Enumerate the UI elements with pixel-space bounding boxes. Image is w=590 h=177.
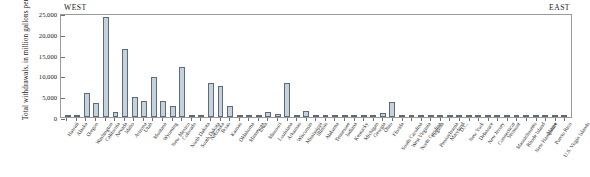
bar[interactable] [198,115,204,117]
bar[interactable] [504,115,510,117]
bar[interactable] [284,83,290,117]
bar-slot [321,15,331,117]
bar[interactable] [533,115,539,117]
region-label-west: WEST [64,3,87,12]
x-label-slot: Alaska [72,121,82,177]
bar[interactable] [456,115,462,117]
bar[interactable] [208,83,214,117]
bar[interactable] [74,115,80,117]
bar-slot [435,15,445,117]
bar-slot [254,15,264,117]
bar[interactable] [494,115,500,117]
x-label-slot: Oklahoma [234,121,244,177]
bar[interactable] [542,115,548,117]
x-label-slot: Texas [215,121,225,177]
bar-slot [330,15,340,117]
bar[interactable] [552,115,558,117]
x-label-slot: Ohio [378,121,388,177]
x-label-slot: Arkansas [282,121,292,177]
bar[interactable] [351,115,357,117]
x-label-slot: West Virginia [407,121,417,177]
x-label-slot: U.S. Virgin Islands [560,121,570,177]
bar-slot [416,15,426,117]
bar-slot [187,15,197,117]
bar-slot [378,15,388,117]
bar[interactable] [179,67,185,117]
bar-slot [244,15,254,117]
bar-slot [101,15,111,117]
x-label-slot: Massachusetts [512,121,522,177]
x-label-slot: Montana [148,121,158,177]
bar-slot [139,15,149,117]
bar[interactable] [256,115,262,117]
bar[interactable] [342,115,348,117]
bar[interactable] [160,101,166,117]
x-axis-tick-labels: HawaiiAlaskaOregonWashingtonCaliforniaNe… [60,121,572,177]
bar[interactable] [514,115,520,117]
bar[interactable] [227,106,233,117]
bar[interactable] [370,115,376,117]
bar[interactable] [447,115,453,117]
bar[interactable] [399,115,405,117]
bar[interactable] [485,115,491,117]
bar[interactable] [151,77,157,117]
bar[interactable] [313,115,319,117]
x-label-slot: Mississippi [301,121,311,177]
bar[interactable] [122,49,128,117]
x-label-slot: Missouri [263,121,273,177]
bar[interactable] [246,115,252,117]
plot-area [60,14,572,118]
x-label-slot: Minnesota [244,121,254,177]
bar[interactable] [265,112,271,117]
bar[interactable] [475,115,481,117]
y-tick-mark [61,77,65,78]
bar-slot [206,15,216,117]
y-axis-tick-labels: 05,00010,00015,00020,00025,000 [24,14,57,118]
y-tick-label: 15,000 [24,52,57,59]
bar-slot [540,15,550,117]
bar[interactable] [237,115,243,117]
bar[interactable] [113,112,119,117]
bar[interactable] [561,115,567,117]
bar[interactable] [275,114,281,117]
bar[interactable] [428,115,434,117]
bar-slot [225,15,235,117]
bar[interactable] [294,115,300,117]
bar-slot [63,15,73,117]
bar-slot [92,15,102,117]
bar[interactable] [332,115,338,117]
bar-slot [158,15,168,117]
bar[interactable] [93,103,99,117]
bar[interactable] [523,115,529,117]
bar[interactable] [65,115,71,117]
bar[interactable] [409,115,415,117]
bar[interactable] [466,115,472,117]
y-tick-label: 25,000 [24,11,57,18]
bar[interactable] [303,111,309,117]
x-label-slot: Rhode Island [522,121,532,177]
bar[interactable] [84,93,90,117]
bar[interactable] [132,97,138,117]
x-label-slot: California [100,121,110,177]
bar[interactable] [418,115,424,117]
bar-slot [111,15,121,117]
bar[interactable] [103,17,109,117]
bar[interactable] [361,115,367,117]
x-label-slot: North Carolina [416,121,426,177]
bar-slot [168,15,178,117]
bar-slot [73,15,83,117]
x-label-slot: Arizona [129,121,139,177]
bar[interactable] [141,101,147,117]
y-tick-mark [61,15,65,16]
bar[interactable] [380,113,386,117]
bar[interactable] [323,115,329,117]
bar[interactable] [437,115,443,117]
x-label-slot: Michigan [359,121,369,177]
bar[interactable] [170,106,176,117]
bar[interactable] [189,115,195,117]
bar[interactable] [389,102,395,117]
bar-slot [531,15,541,117]
bar-series [61,15,571,117]
bar-slot [454,15,464,117]
bar[interactable] [218,86,224,117]
